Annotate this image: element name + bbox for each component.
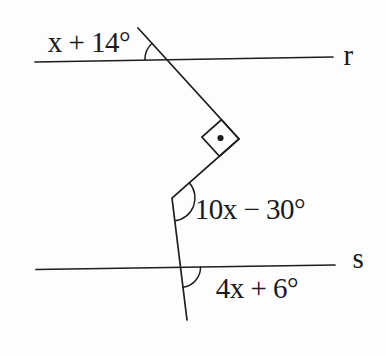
line-r-label: r — [343, 39, 353, 71]
geometry-figure: x + 14° 10x − 30° 4x + 6° r s — [0, 0, 386, 356]
worksheet-page: x + 14° 10x − 30° 4x + 6° r s — [0, 0, 386, 356]
line-s — [36, 265, 335, 270]
angle-label-middle: 10x − 30° — [195, 193, 305, 225]
angle-label-top: x + 14° — [48, 26, 130, 58]
line-s-label: s — [353, 242, 364, 274]
angle-arc-bottom — [183, 267, 201, 287]
angle-arc-middle — [175, 183, 195, 221]
angle-label-bottom: 4x + 6° — [216, 272, 298, 304]
right-angle-dot — [217, 135, 223, 141]
angle-arc-top — [145, 43, 152, 60]
